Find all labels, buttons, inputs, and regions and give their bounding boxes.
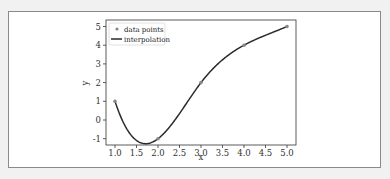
y-axis: -1012345 [93, 22, 106, 144]
y-tick-label: -1 [93, 134, 101, 144]
data-point [156, 137, 160, 141]
chart: -1012345 1.01.52.02.53.03.54.04.55.0 x y… [0, 0, 390, 179]
x-tick-label: 2.0 [151, 148, 165, 158]
data-point [199, 81, 203, 85]
x-tick-label: 3.5 [216, 148, 230, 158]
y-axis-label: y [80, 80, 90, 86]
y-tick-label: 5 [96, 22, 101, 32]
x-tick-label: 1.5 [130, 148, 144, 158]
y-tick-label: 3 [96, 59, 101, 69]
data-point [242, 43, 246, 47]
legend: data points interpolation [109, 23, 170, 45]
x-tick-label: 5.0 [280, 148, 294, 158]
x-tick-label: 1.0 [108, 148, 122, 158]
y-tick-label: 2 [96, 78, 101, 88]
data-point [285, 25, 289, 29]
y-tick-label: 4 [96, 40, 101, 50]
data-point [113, 100, 117, 104]
y-tick-label: 1 [96, 96, 101, 106]
legend-marker-data-points [115, 27, 118, 30]
x-tick-label: 4.5 [259, 148, 273, 158]
x-tick-label: 2.5 [173, 148, 187, 158]
y-tick-label: 0 [96, 115, 101, 125]
legend-label-data-points: data points [124, 26, 164, 34]
x-axis-label: x [199, 152, 204, 162]
legend-label-interpolation: interpolation [124, 36, 170, 44]
x-tick-label: 4.0 [237, 148, 251, 158]
